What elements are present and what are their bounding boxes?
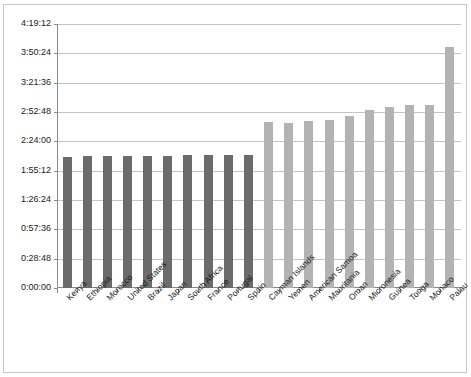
- y-tick-label: 0:28:48: [21, 254, 51, 263]
- bar: [224, 155, 233, 288]
- bar: [83, 156, 92, 288]
- bars-layer: [57, 24, 460, 288]
- bar: [445, 47, 454, 288]
- bar: [264, 122, 273, 288]
- y-tick-label: 2:24:00: [21, 136, 51, 145]
- y-tick-label: 3:21:36: [21, 78, 51, 87]
- x-axis-labels: KenyaEthiopiaMoroccoUnited StatesBrazilJ…: [57, 293, 460, 377]
- y-tick-label: 1:26:24: [21, 195, 51, 204]
- y-axis-labels: 0:00:000:28:480:57:361:26:241:55:122:24:…: [0, 0, 51, 377]
- bar: [183, 155, 192, 288]
- y-tick-label: 4:19:12: [21, 19, 51, 28]
- bar: [103, 156, 112, 288]
- y-tick-label: 3:50:24: [21, 48, 51, 57]
- bar: [123, 156, 132, 288]
- bar: [425, 105, 434, 288]
- bar: [325, 120, 334, 288]
- bar: [385, 107, 394, 288]
- chart-container: 0:00:000:28:480:57:361:26:241:55:122:24:…: [0, 0, 471, 377]
- bar: [244, 155, 253, 288]
- y-tick-label: 2:52:48: [21, 107, 51, 116]
- bar: [63, 157, 72, 288]
- bar: [405, 105, 414, 288]
- bar: [284, 123, 293, 289]
- y-tick-label: 0:57:36: [21, 224, 51, 233]
- bar: [365, 110, 374, 288]
- y-tick-label: 0:00:00: [21, 283, 51, 292]
- y-tick-label: 1:55:12: [21, 166, 51, 175]
